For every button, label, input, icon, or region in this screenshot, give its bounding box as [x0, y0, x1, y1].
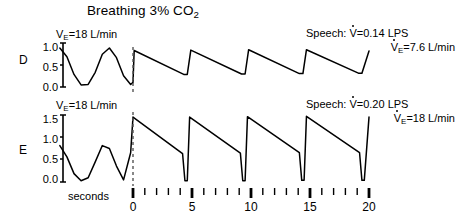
panel-d-trace [60, 48, 369, 85]
panel-e-trace [60, 116, 369, 180]
x-axis-ticks [133, 188, 369, 198]
waveform-canvas [0, 0, 458, 219]
figure-root: Breathing 3% CO2 D 1.0 0.5 0.0 VE=18 L/m… [0, 0, 458, 219]
